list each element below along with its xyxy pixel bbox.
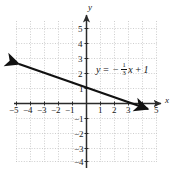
x-tick-label-neg5: −5 (9, 106, 19, 115)
x-tick-label-2: 2 (112, 106, 117, 115)
equation-lhs: y (96, 65, 100, 75)
y-axis-label: y (88, 3, 92, 12)
graph-figure: −5 −4 −3 −2 −1 1 2 3 5 5 4 3 2 1 −1 −2 −… (0, 0, 173, 170)
y-tick-label-neg3: −3 (74, 145, 84, 154)
x-tick-label-neg2: −2 (51, 106, 61, 115)
x-tick-label-5: 5 (154, 106, 159, 115)
equation-variable: x (128, 65, 132, 75)
y-tick-label-neg1: −1 (74, 115, 84, 124)
equation-equals: = (101, 65, 110, 75)
equation-annotation: y = − 1 3 x + 1 (96, 62, 148, 77)
x-tick-label-1: 1 (98, 106, 103, 115)
equation-plus-sign: + (134, 65, 143, 75)
y-axis (85, 15, 89, 168)
coordinate-plane-svg (0, 0, 173, 170)
y-tick-label-4: 4 (78, 40, 83, 49)
equation-minus-sign: − (111, 65, 120, 75)
fraction-denominator: 3 (121, 70, 126, 77)
x-axis-label: x (165, 96, 169, 105)
x-tick-label-neg3: −3 (37, 106, 47, 115)
equation-fraction: 1 3 (121, 62, 126, 77)
fraction-numerator: 1 (121, 62, 126, 69)
y-tick-label-neg2: −2 (74, 130, 84, 139)
y-tick-label-5: 5 (78, 25, 83, 34)
y-tick-label-neg4: −4 (74, 158, 84, 167)
y-tick-label-1: 1 (79, 85, 84, 94)
y-tick-label-2: 2 (78, 70, 83, 79)
y-tick-label-3: 3 (78, 55, 83, 64)
x-tick-label-neg4: −4 (23, 106, 33, 115)
equation-constant: 1 (143, 65, 148, 75)
x-tick-label-3: 3 (126, 106, 131, 115)
